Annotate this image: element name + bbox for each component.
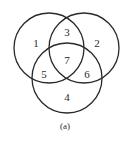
region-label-6: 6 (84, 68, 90, 80)
region-label-5: 5 (41, 68, 47, 80)
region-label-7: 7 (64, 54, 70, 66)
region-label-2: 2 (94, 37, 100, 49)
region-label-3: 3 (64, 26, 70, 38)
figure-caption: (a) (60, 121, 70, 131)
venn-diagram: 1 2 3 4 5 6 7 (a) (0, 0, 127, 143)
region-label-1: 1 (33, 37, 39, 49)
region-label-4: 4 (64, 91, 70, 103)
